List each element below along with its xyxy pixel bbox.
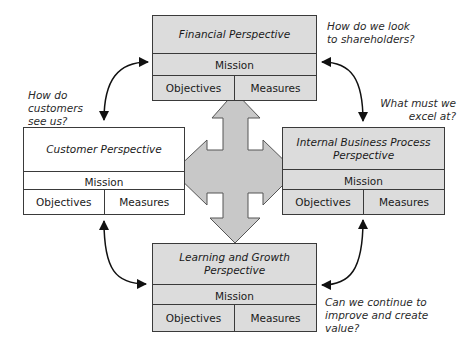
customer-question: How do customers see us? xyxy=(28,89,83,128)
learning-measures: Measures xyxy=(234,305,316,331)
internal-question-line-2: excel at? xyxy=(360,110,456,123)
financial-question-line-2: to shareholders? xyxy=(327,33,415,46)
internal-perspective-title: Internal Business Process Perspective xyxy=(283,128,444,169)
financial-question-line-1: How do we look xyxy=(327,20,415,33)
learning-mission: Mission xyxy=(153,284,316,306)
customer-question-line-1: How do xyxy=(28,89,83,102)
financial-perspective-title: Financial Perspective xyxy=(153,16,316,53)
internal-objectives-measures: Objectives Measures xyxy=(283,189,444,214)
internal-title-line-2: Perspective xyxy=(333,149,394,162)
internal-title-line-1: Internal Business Process xyxy=(297,136,431,149)
customer-measures: Measures xyxy=(104,190,185,214)
internal-business-process-perspective-box: Internal Business Process Perspective Mi… xyxy=(282,127,445,215)
connector-arrow-customer-learning xyxy=(104,221,146,284)
internal-measures: Measures xyxy=(363,190,444,214)
customer-question-line-2: customers xyxy=(28,102,83,115)
financial-measures: Measures xyxy=(234,76,316,100)
connector-arrow-financial-internal xyxy=(322,62,363,121)
customer-objectives-measures: Objectives Measures xyxy=(24,189,184,214)
learning-question-line-1: Can we continue to xyxy=(325,296,428,309)
customer-perspective-box: Customer Perspective Mission Objectives … xyxy=(23,127,185,215)
learning-question-line-3: value? xyxy=(325,322,428,335)
learning-objectives: Objectives xyxy=(153,305,234,331)
customer-perspective-title: Customer Perspective xyxy=(24,128,184,171)
financial-objectives: Objectives xyxy=(153,76,234,100)
learning-question: Can we continue to improve and create va… xyxy=(325,296,428,335)
learning-growth-perspective-box: Learning and Growth Perspective Mission … xyxy=(152,243,317,332)
learning-title-line-1: Learning and Growth xyxy=(179,251,290,264)
learning-question-line-2: improve and create xyxy=(325,309,428,322)
four-way-arrow-icon xyxy=(173,92,296,243)
financial-perspective-box: Financial Perspective Mission Objectives… xyxy=(152,15,317,101)
internal-question-line-1: What must we xyxy=(360,97,456,110)
financial-mission: Mission xyxy=(153,53,316,76)
internal-objectives: Objectives xyxy=(283,190,363,214)
connector-arrow-financial-customer xyxy=(104,62,148,120)
financial-objectives-measures: Objectives Measures xyxy=(153,75,316,100)
learning-objectives-measures: Objectives Measures xyxy=(153,304,316,331)
customer-mission: Mission xyxy=(24,171,184,191)
learning-perspective-title: Learning and Growth Perspective xyxy=(153,244,316,284)
customer-question-line-3: see us? xyxy=(28,115,83,128)
learning-title-line-2: Perspective xyxy=(204,264,265,277)
internal-question: What must we excel at? xyxy=(360,97,456,123)
connector-arrow-internal-learning xyxy=(322,220,363,285)
customer-objectives: Objectives xyxy=(24,190,104,214)
financial-question: How do we look to shareholders? xyxy=(327,20,415,46)
internal-mission: Mission xyxy=(283,169,444,191)
